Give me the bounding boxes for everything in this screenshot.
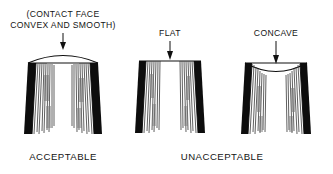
diagram-canvas: (CONTACT FACE CONVEX AND SMOOTH) [0,0,333,174]
caption-unacceptable: UNACCEPTABLE [181,151,264,162]
concave-callout-label: CONCAVE [254,28,298,38]
convex-callout-line1: (CONTACT FACE [27,9,100,19]
flat-callout-label: FLAT [159,28,181,38]
caption-acceptable: ACCEPTABLE [29,151,97,162]
convex-callout-line2: CONVEX AND SMOOTH) [10,20,116,30]
